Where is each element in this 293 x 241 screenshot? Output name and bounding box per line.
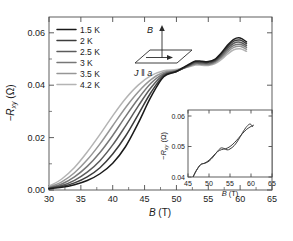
- inset-y-axis-title: −Rxy (Ω): [159, 132, 169, 160]
- inset-xtick-4: 65: [268, 180, 276, 187]
- main-xtick-2: 40: [108, 194, 118, 204]
- inset-background: [188, 110, 272, 177]
- hall-resistance-figure: 30 35 40 45 50 55 60 65 0.00 0.02 0.04 0…: [0, 0, 293, 241]
- main-xtick-4: 50: [171, 194, 181, 204]
- main-xtick-5: 55: [203, 194, 213, 204]
- legend-label-2: 2.5 K: [80, 47, 100, 57]
- inset-ytick-0: 0.04: [171, 174, 185, 181]
- main-ytick-1: 0.02: [27, 133, 45, 143]
- inset-xtick-2: 55: [226, 180, 234, 187]
- inset-x-axis-title: B (T): [222, 189, 239, 198]
- legend-label-0: 1.5 K: [80, 25, 100, 35]
- main-ytick-2: 0.04: [27, 80, 45, 90]
- legend: 1.5 K 2 K 2.5 K 3 K 3.5 K 4.2 K: [57, 25, 100, 90]
- inset-plot: 45 50 55 60 65 0.04 0.05 0.06 B (T) −Rxy…: [159, 110, 276, 198]
- field-arrow-head-icon: [159, 25, 165, 31]
- sample-plane-icon: [135, 50, 192, 63]
- main-ytick-3: 0.06: [27, 28, 45, 38]
- main-ytick-0: 0.00: [27, 185, 45, 195]
- main-x-axis-unit: (T): [156, 207, 172, 218]
- main-y-axis-unit: (Ω): [5, 85, 16, 102]
- inset-xtick-1: 50: [205, 180, 213, 187]
- main-y-axis-title: −Rxy (Ω): [5, 85, 18, 122]
- main-xtick-0: 30: [44, 194, 54, 204]
- legend-label-4: 3.5 K: [80, 69, 100, 79]
- legend-label-5: 4.2 K: [80, 80, 100, 90]
- main-x-axis-title: B (T): [149, 207, 171, 218]
- inset-xtick-0: 45: [184, 180, 192, 187]
- inset-x-axis-unit: (T): [227, 189, 239, 198]
- inset-ytick-2: 0.06: [171, 113, 185, 120]
- sample-orientation-schematic: B J ‖ a: [133, 25, 192, 78]
- current-arrow-head-icon: [167, 55, 173, 60]
- main-xtick-7: 65: [267, 194, 277, 204]
- main-xtick-1: 35: [76, 194, 86, 204]
- legend-label-3: 3 K: [80, 58, 93, 68]
- main-xtick-3: 45: [140, 194, 150, 204]
- field-label: B: [147, 25, 153, 35]
- legend-label-1: 2 K: [80, 36, 93, 46]
- figure-svg: 30 35 40 45 50 55 60 65 0.00 0.02 0.04 0…: [0, 0, 293, 241]
- inset-ytick-1: 0.05: [171, 143, 185, 150]
- main-y-axis-prefix: −R: [5, 108, 16, 121]
- inset-xtick-3: 60: [247, 180, 255, 187]
- inset-y-axis-unit: (Ω): [159, 132, 168, 145]
- current-label: J ‖ a: [133, 68, 152, 78]
